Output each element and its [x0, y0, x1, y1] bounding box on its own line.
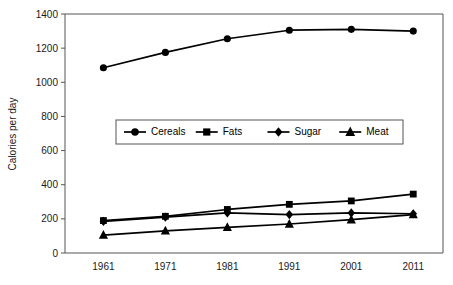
y-tick-label: 400 [41, 179, 58, 190]
data-point-cereals [410, 28, 417, 35]
x-tick-label: 2001 [340, 261, 363, 272]
data-point-cereals [286, 27, 293, 34]
y-tick-label: 600 [41, 145, 58, 156]
y-tick-label: 0 [52, 248, 58, 259]
y-tick-label: 1400 [36, 9, 59, 20]
data-point-cereals [162, 49, 169, 56]
chart-container: 0200400600800100012001400 19611971198119… [0, 0, 453, 285]
chart-legend: CerealsFatsSugarMeat [116, 120, 403, 144]
y-tick-label: 1000 [36, 77, 59, 88]
legend-label-fats: Fats [223, 126, 242, 137]
legend-marker-square-icon [203, 128, 210, 135]
calories-per-day-line-chart: 0200400600800100012001400 19611971198119… [0, 0, 453, 285]
x-tick-label: 1991 [278, 261, 301, 272]
legend-label-sugar: Sugar [295, 126, 322, 137]
x-tick-label: 1981 [216, 261, 239, 272]
x-tick-label: 1961 [92, 261, 115, 272]
y-axis-title: Calories per day [7, 98, 18, 171]
legend-label-meat: Meat [366, 126, 388, 137]
data-point-fats [286, 201, 293, 208]
data-point-cereals [100, 64, 107, 71]
x-tick-label: 2011 [402, 261, 424, 272]
data-point-fats [410, 191, 417, 198]
data-point-fats [348, 198, 355, 205]
legend-label-cereals: Cereals [151, 126, 185, 137]
y-tick-label: 1200 [36, 43, 59, 54]
legend-marker-circle-icon [131, 128, 139, 136]
data-point-cereals [224, 35, 231, 42]
data-point-cereals [348, 26, 355, 33]
x-tick-label: 1971 [154, 261, 177, 272]
y-tick-label: 800 [41, 111, 58, 122]
y-tick-label: 200 [41, 213, 58, 224]
